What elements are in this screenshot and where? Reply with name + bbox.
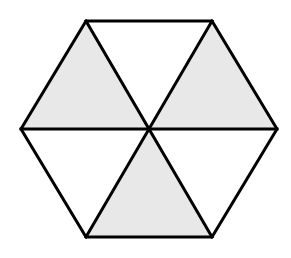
hexagon-svg (0, 0, 291, 258)
hexagon-figure (0, 0, 291, 258)
